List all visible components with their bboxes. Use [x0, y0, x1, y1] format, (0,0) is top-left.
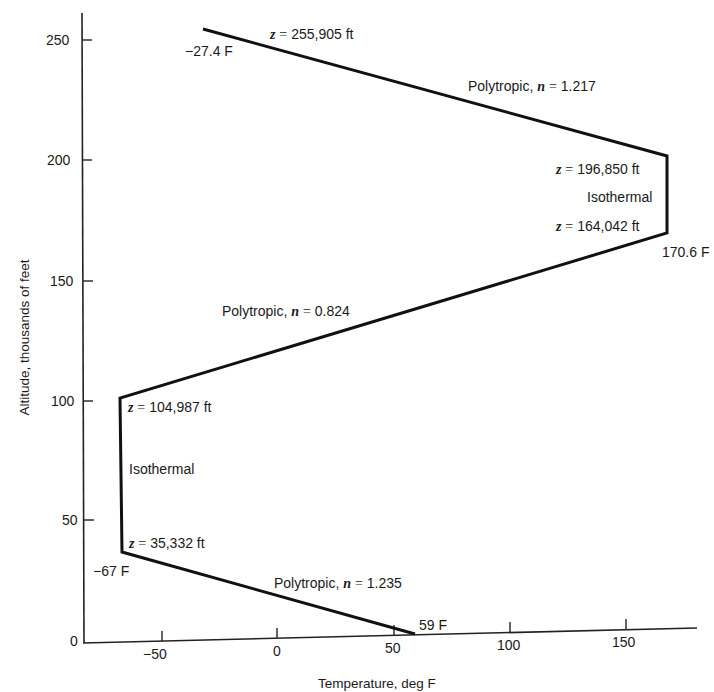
- equals-sign: =: [137, 400, 145, 415]
- polytropic-text: Polytropic,: [274, 575, 339, 591]
- annotation-polytropic-1217: Polytropic, n = 1.217: [468, 78, 596, 95]
- annotation-z-196850: z = 196,850 ft: [556, 161, 639, 178]
- y-axis: [82, 13, 84, 643]
- x-tick-100: 100: [497, 637, 520, 653]
- equals-sign: =: [303, 304, 311, 319]
- x-tick-150: 150: [612, 634, 635, 650]
- x-tick-0: 0: [273, 643, 281, 659]
- annotation-z-164042: z = 164,042 ft: [556, 218, 639, 235]
- equals-sign: =: [138, 536, 146, 551]
- z-symbol: z: [128, 400, 133, 415]
- x-tick-50: 50: [385, 640, 401, 656]
- equals-sign: =: [355, 576, 363, 591]
- polytropic-text: Polytropic,: [468, 78, 533, 94]
- z-value: 104,987 ft: [149, 399, 211, 415]
- equals-sign: =: [279, 27, 287, 42]
- z-symbol: z: [556, 162, 561, 177]
- z-symbol: z: [556, 219, 561, 234]
- n-value: 1.217: [561, 78, 596, 94]
- z-value: 196,850 ft: [577, 161, 639, 177]
- x-axis-label: Temperature, deg F: [318, 676, 436, 691]
- y-tick-200: 200: [47, 152, 70, 168]
- n-symbol: n: [291, 304, 299, 319]
- polytropic-text: Polytropic,: [222, 303, 287, 319]
- equals-sign: =: [565, 162, 573, 177]
- z-symbol: z: [129, 536, 134, 551]
- n-symbol: n: [537, 79, 545, 94]
- annotation-temp-170: 170.6 F: [662, 244, 709, 260]
- n-value: 0.824: [315, 303, 350, 319]
- y-tick-100: 100: [51, 393, 74, 409]
- annotation-isothermal-upper: Isothermal: [587, 189, 652, 205]
- z-symbol: z: [270, 27, 275, 42]
- y-tick-250: 250: [46, 32, 69, 48]
- z-value: 255,905 ft: [291, 26, 353, 42]
- z-value: 164,042 ft: [577, 218, 639, 234]
- annotation-z-35332: z = 35,332 ft: [129, 535, 205, 552]
- n-symbol: n: [343, 576, 351, 591]
- annotation-temp-59: 59 F: [419, 617, 447, 633]
- annotation-polytropic-0824: Polytropic, n = 0.824: [222, 303, 350, 320]
- equals-sign: =: [549, 79, 557, 94]
- annotation-polytropic-1235: Polytropic, n = 1.235: [274, 575, 402, 592]
- y-axis-label: Altitude, thousands of feet: [17, 248, 32, 428]
- annotation-temp-neg67: −67 F: [93, 563, 129, 579]
- x-tick-neg50: −50: [143, 646, 167, 662]
- annotation-temp-neg27: −27.4 F: [185, 43, 233, 59]
- x-ticks: [162, 619, 626, 641]
- n-value: 1.235: [367, 575, 402, 591]
- annotation-z-255905: z = 255,905 ft: [270, 26, 353, 43]
- y-tick-50: 50: [62, 512, 78, 528]
- y-tick-0: 0: [70, 633, 78, 649]
- annotation-z-104987: z = 104,987 ft: [128, 399, 211, 416]
- z-value: 35,332 ft: [150, 535, 205, 551]
- equals-sign: =: [565, 219, 573, 234]
- annotation-isothermal-lower: Isothermal: [129, 461, 194, 477]
- y-tick-150: 150: [50, 273, 73, 289]
